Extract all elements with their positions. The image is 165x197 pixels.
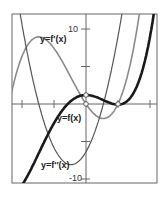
y-tick-label-neg10: -10 (69, 173, 82, 183)
y-tick-label-10: 10 (68, 24, 78, 34)
label-f-double-prime: y=f''(x) (41, 160, 70, 170)
open-circle-marker (116, 102, 121, 107)
label-f: y=f(x) (57, 113, 81, 123)
chart: 10 -10 y=f'(x) y=f(x) y=f''(x) (0, 0, 165, 197)
open-circle-marker (84, 93, 89, 98)
label-f-prime: y=f'(x) (40, 34, 66, 44)
open-circle-marker (84, 102, 89, 107)
